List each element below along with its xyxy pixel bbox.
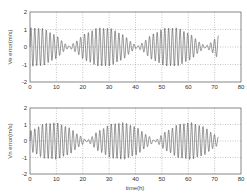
y-tick-label: -1	[22, 155, 28, 161]
x-tick-label: 20	[79, 84, 86, 90]
y-axis-label: Ve error(m/s)	[7, 29, 13, 64]
subplot-vn-error: -2-1012 01020304050607080 Vn error(m/s) …	[7, 105, 245, 191]
x-tick-label: 50	[159, 176, 166, 182]
x-tick-label: 70	[211, 84, 218, 90]
x-tick-label: 10	[53, 176, 60, 182]
x-tick-label: 80	[238, 176, 245, 182]
x-tick-label: 50	[159, 84, 166, 90]
y-axis-label: Vn error(m/s)	[7, 123, 13, 158]
x-tick-label: 0	[28, 84, 32, 90]
x-tick-labels: 01020304050607080	[28, 176, 245, 182]
y-tick-label: 0	[24, 44, 28, 50]
figure: -2-1012 01020304050607080 Ve error(m/s) …	[0, 0, 247, 194]
y-tick-label: 0	[24, 138, 28, 144]
y-tick-label: 2	[24, 9, 28, 15]
x-tick-label: 80	[238, 84, 245, 90]
x-tick-label: 40	[132, 84, 139, 90]
y-tick-labels: -2-1012	[22, 105, 28, 177]
x-tick-label: 10	[53, 84, 60, 90]
y-tick-label: 2	[24, 105, 28, 111]
x-tick-label: 30	[106, 176, 113, 182]
x-tick-label: 30	[106, 84, 113, 90]
subplot-ve-error: -2-1012 01020304050607080 Ve error(m/s)	[7, 9, 245, 90]
x-tick-label: 70	[211, 176, 218, 182]
x-axis-label: time(h)	[126, 185, 145, 191]
y-tick-label: -2	[22, 171, 28, 177]
x-tick-labels: 01020304050607080	[28, 84, 245, 90]
x-tick-label: 20	[79, 176, 86, 182]
y-tick-label: -1	[22, 62, 28, 68]
y-tick-label: 1	[24, 27, 28, 33]
x-tick-label: 60	[185, 176, 192, 182]
x-tick-label: 60	[185, 84, 192, 90]
y-tick-labels: -2-1012	[22, 9, 28, 85]
y-tick-label: 1	[24, 122, 28, 128]
x-tick-label: 0	[28, 176, 32, 182]
x-tick-label: 40	[132, 176, 139, 182]
y-tick-label: -2	[22, 79, 28, 85]
